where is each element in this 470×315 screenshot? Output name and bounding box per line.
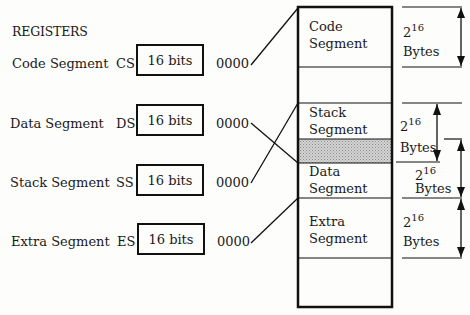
register-abbr: ES [117,234,135,249]
register-abbr: DS [116,116,135,131]
register-name: Extra Segment [11,234,110,249]
register-abbr: CS [116,56,135,71]
register-box: 16 bits [136,104,204,136]
cs-pointer [251,8,298,65]
register-offset: 0000 [216,56,249,71]
es-pointer [251,198,298,243]
size-code-unit: Bytes [403,44,440,59]
register-offset: 0000 [217,234,250,249]
size-code-exponent: 216 [403,22,424,40]
size-stack-exponent: 216 [400,116,421,134]
register-offset: 0000 [216,175,249,190]
register-box: 16 bits [136,164,204,196]
overlap-region [299,139,391,163]
segment-stack-label: Stack Segment [309,104,368,138]
register-name: Data Segment [10,116,104,131]
registers-heading: REGISTERS [12,24,88,39]
segment-data-label: Data Segment [309,163,368,197]
size-stack-unit: Bytes [400,140,437,155]
register-abbr: SS [116,175,134,190]
diagram-lines [0,0,470,315]
register-offset: 0000 [216,116,249,131]
size-data-unit: Bytes [415,181,452,196]
ss-pointer [251,103,298,183]
register-name: Stack Segment [10,175,110,190]
segment-extra-label: Extra Segment [309,213,368,247]
size-extra-exponent: 216 [403,212,424,230]
size-extra-unit: Bytes [403,234,440,249]
segment-code-label: Code Segment [309,18,368,52]
register-box: 16 bits [137,223,205,255]
register-name: Code Segment [12,56,108,71]
register-box: 16 bits [136,44,204,76]
